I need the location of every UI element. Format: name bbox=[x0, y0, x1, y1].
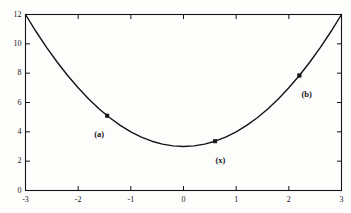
data-point-marker-1 bbox=[213, 140, 216, 143]
y-tick-label-4: 8 bbox=[2, 69, 22, 77]
y-tick-label-2: 4 bbox=[2, 128, 22, 136]
x-tick-label-1: -2 bbox=[75, 196, 82, 204]
y-tick-label-3: 6 bbox=[2, 99, 22, 107]
y-tick-label-0: 0 bbox=[2, 187, 22, 195]
x-tick-label-3: 0 bbox=[182, 196, 186, 204]
data-point-marker-0 bbox=[105, 114, 108, 117]
plot-area bbox=[0, 0, 351, 213]
data-point-label-2: (b) bbox=[302, 90, 312, 99]
x-tick-label-2: -1 bbox=[127, 196, 134, 204]
x-tick-label-6: 3 bbox=[340, 196, 344, 204]
y-tick-label-1: 2 bbox=[2, 157, 22, 165]
x-tick-label-0: -3 bbox=[22, 196, 29, 204]
data-point-label-1: (x) bbox=[215, 156, 225, 165]
figure-container: 024681012-3-2-10123(a)(x)(b) bbox=[0, 0, 351, 213]
y-tick-label-5: 10 bbox=[2, 40, 22, 48]
x-tick-label-5: 2 bbox=[287, 196, 291, 204]
data-point-label-0: (a) bbox=[94, 130, 104, 139]
plot-frame bbox=[26, 15, 342, 191]
data-point-marker-2 bbox=[298, 74, 301, 77]
curve-path bbox=[26, 15, 342, 147]
x-tick-label-4: 1 bbox=[234, 196, 238, 204]
y-tick-label-6: 12 bbox=[2, 11, 22, 19]
